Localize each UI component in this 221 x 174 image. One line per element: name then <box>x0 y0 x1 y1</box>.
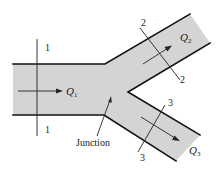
section-1-label-top: 1 <box>45 42 50 53</box>
section-2-label-bottom: 2 <box>180 74 185 85</box>
section-1-label-bottom: 1 <box>45 124 50 135</box>
section-3-label-top: 3 <box>168 97 173 108</box>
pipe-junction-diagram: 1 1 2 2 3 3 Q1 Q2 Q3 Jun <box>0 0 221 174</box>
section-3-label-bottom: 3 <box>140 152 145 163</box>
flow-label-q3: Q3 <box>189 144 201 158</box>
junction-label: Junction <box>76 137 110 148</box>
section-2-label-top: 2 <box>141 17 146 28</box>
